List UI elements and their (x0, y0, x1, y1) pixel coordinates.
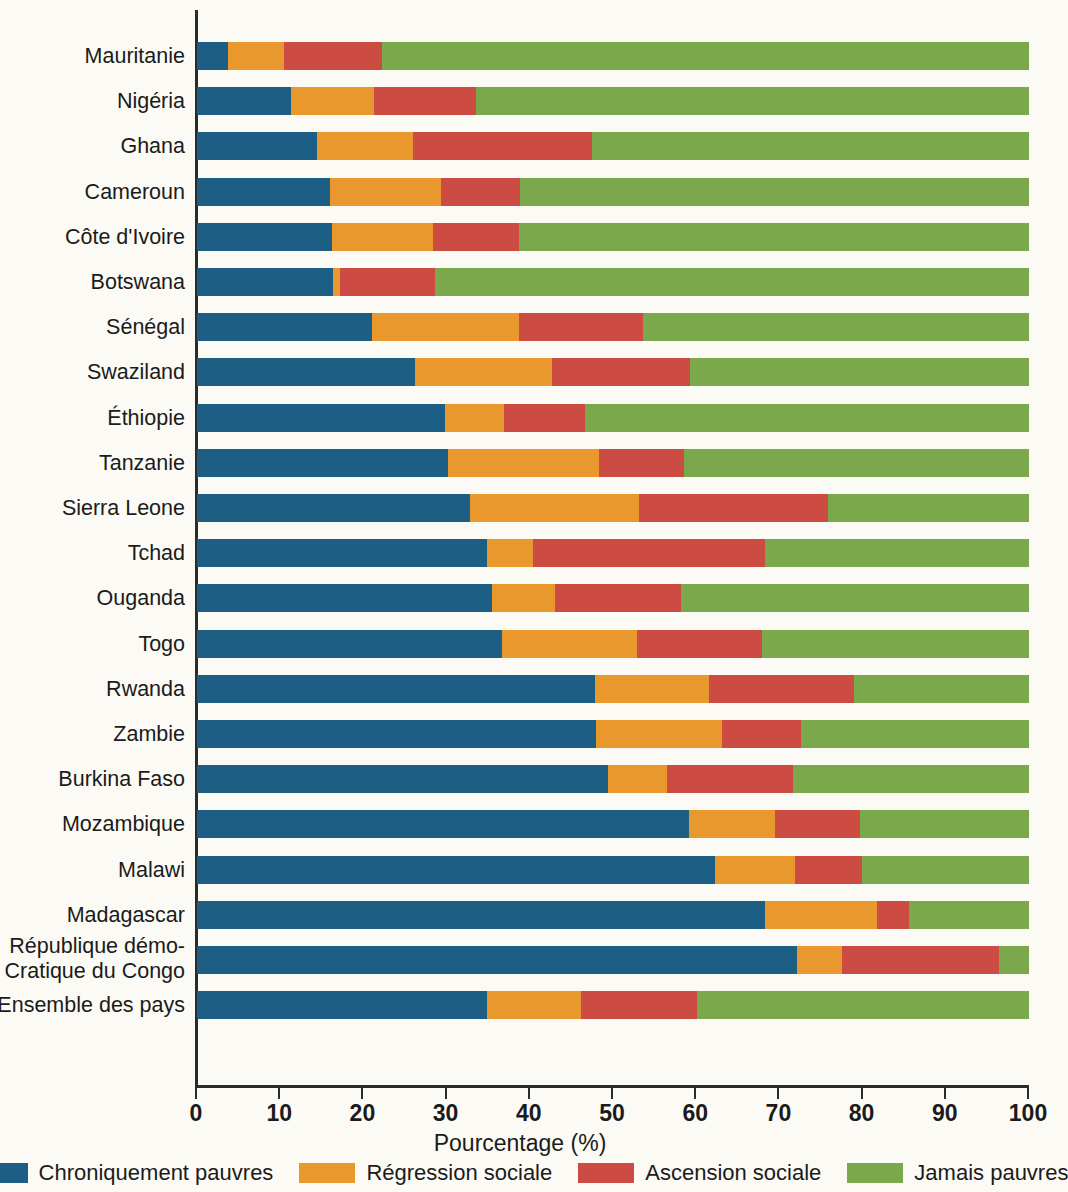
bar-segment (690, 358, 1029, 386)
bar-segment (697, 991, 1029, 1019)
stacked-bar (197, 87, 1029, 115)
stacked-bar (197, 404, 1029, 432)
bar-segment (197, 901, 765, 929)
category-label: Zambie (0, 720, 185, 748)
bar-segment (801, 720, 1029, 748)
bar-segment (793, 765, 1029, 793)
bar-segment (681, 584, 1029, 612)
chart-row: Côte d'Ivoire (0, 223, 1040, 251)
legend-label: Chroniquement pauvres (39, 1160, 274, 1186)
chart-row: Ouganda (0, 584, 1040, 612)
category-label: Tchad (0, 539, 185, 567)
bar-segment (795, 856, 862, 884)
bar-segment (667, 765, 793, 793)
x-axis-tick (278, 1088, 280, 1099)
x-axis-tick (861, 1088, 863, 1099)
bar-segment (197, 720, 596, 748)
stacked-bar (197, 584, 1029, 612)
bar-segment (291, 87, 374, 115)
bar-segment (709, 675, 855, 703)
bar-segment (197, 494, 470, 522)
bar-segment (197, 268, 333, 296)
bar-segment (519, 313, 643, 341)
stacked-bar (197, 720, 1029, 748)
chart-row: Éthiopie (0, 404, 1040, 432)
x-axis-tick-label: 10 (266, 1100, 292, 1127)
bar-segment (689, 810, 776, 838)
bar-segment (842, 946, 999, 974)
category-label: Ghana (0, 132, 185, 160)
bar-segment (684, 449, 1029, 477)
chart-row: Nigéria (0, 87, 1040, 115)
chart-row: Madagascar (0, 901, 1040, 929)
bar-segment (445, 404, 504, 432)
bar-segment (487, 991, 581, 1019)
legend-swatch-icon (0, 1163, 28, 1183)
category-label: Nigéria (0, 87, 185, 115)
bar-segment (762, 630, 1029, 658)
bar-segment (797, 946, 842, 974)
bar-segment (197, 178, 330, 206)
bar-segment (435, 268, 1029, 296)
bar-segment (448, 449, 599, 477)
bar-segment (374, 87, 476, 115)
bar-segment (909, 901, 1029, 929)
chart-row: Malawi (0, 856, 1040, 884)
bar-segment (382, 42, 1029, 70)
category-label: Côte d'Ivoire (0, 223, 185, 251)
chart-row: Tanzanie (0, 449, 1040, 477)
category-label: Sierra Leone (0, 494, 185, 522)
bar-segment (332, 223, 434, 251)
bar-segment (197, 87, 291, 115)
bar-segment (228, 42, 285, 70)
bar-segment (372, 313, 519, 341)
bar-segment (415, 358, 552, 386)
x-axis-tick-label: 100 (1009, 1100, 1047, 1127)
bar-segment (520, 178, 1029, 206)
bar-segment (639, 494, 829, 522)
bar-segment (197, 584, 492, 612)
category-label: Éthiopie (0, 404, 185, 432)
category-label: Burkina Faso (0, 765, 185, 793)
bar-segment (441, 178, 520, 206)
chart-row: Sénégal (0, 313, 1040, 341)
legend-item: Chroniquement pauvres (0, 1160, 273, 1186)
legend-label: Régression sociale (366, 1160, 552, 1186)
x-axis-tick (195, 1088, 197, 1099)
bar-segment (433, 223, 519, 251)
stacked-bar (197, 856, 1029, 884)
bar-segment (197, 132, 317, 160)
stacked-bar (197, 630, 1029, 658)
stacked-bar (197, 991, 1029, 1019)
x-axis-tick-label: 90 (932, 1100, 958, 1127)
chart-legend: Chroniquement pauvresRégression socialeA… (0, 1160, 1040, 1186)
bar-segment (197, 358, 415, 386)
stacked-bar (197, 494, 1029, 522)
bar-segment (197, 856, 715, 884)
chart-row: Sierra Leone (0, 494, 1040, 522)
x-axis-tick (361, 1088, 363, 1099)
x-axis-tick-label: 0 (190, 1100, 203, 1127)
chart-row: Botswana (0, 268, 1040, 296)
legend-item: Ascension sociale (578, 1160, 821, 1186)
bar-segment (284, 42, 381, 70)
bar-segment (722, 720, 801, 748)
bar-segment (197, 991, 487, 1019)
bar-segment (715, 856, 795, 884)
chart-row: Cameroun (0, 178, 1040, 206)
category-label: République démo-Cratique du Congo (0, 934, 185, 984)
bar-segment (197, 675, 595, 703)
legend-swatch-icon (578, 1163, 634, 1183)
x-axis-tick-label: 80 (849, 1100, 875, 1127)
bar-segment (608, 765, 667, 793)
bar-segment (637, 630, 762, 658)
x-axis-tick-label: 60 (682, 1100, 708, 1127)
bar-segment (552, 358, 690, 386)
legend-swatch-icon (847, 1163, 903, 1183)
stacked-bar (197, 901, 1029, 929)
stacked-bar (197, 178, 1029, 206)
x-axis-tick (1027, 1088, 1029, 1099)
bar-segment (197, 810, 689, 838)
x-axis-tick-label: 50 (599, 1100, 625, 1127)
